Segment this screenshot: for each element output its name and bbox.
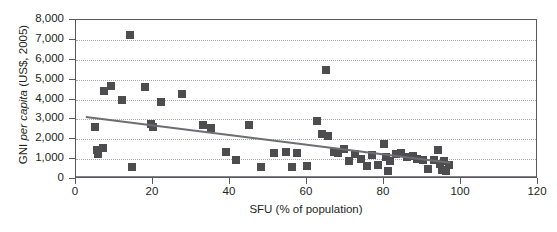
x-tick-label: 0 [55, 186, 95, 197]
x-tick-label: 40 [209, 186, 249, 197]
x-tick-mark [537, 178, 538, 184]
x-axis-title: SFU (% of population) [75, 203, 537, 215]
x-axis-ticks: 020406080100120 [0, 0, 557, 232]
x-tick-label: 80 [363, 186, 403, 197]
x-tick-label: 120 [517, 186, 557, 197]
x-tick-label: 100 [440, 186, 480, 197]
x-tick-mark [152, 178, 153, 184]
x-tick-mark [306, 178, 307, 184]
x-tick-mark [383, 178, 384, 184]
x-tick-label: 60 [286, 186, 326, 197]
x-tick-mark [460, 178, 461, 184]
x-tick-mark [229, 178, 230, 184]
scatter-chart: GNI per capita (US$, 2005) 01,0002,0003,… [0, 0, 557, 232]
x-tick-label: 20 [132, 186, 172, 197]
x-tick-mark [75, 178, 76, 184]
